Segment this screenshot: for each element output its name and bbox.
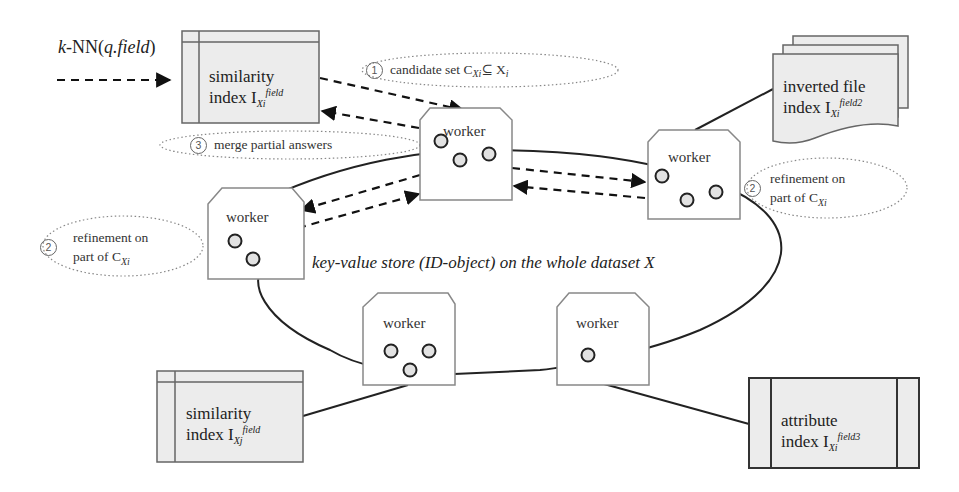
step-number-icon: 2	[40, 239, 57, 256]
note-step1: 1candidate set CXi⊆ Xi	[366, 62, 509, 79]
worker-label-bottom-left: worker	[383, 316, 425, 331]
worker-shape-top	[420, 108, 512, 200]
kv-store-label: key-value store (ID-object) on the whole…	[312, 254, 655, 271]
link-inverted	[695, 89, 773, 130]
note-step2-right: 2 refinement on part of CXi	[744, 172, 845, 204]
link-attribute	[604, 384, 749, 424]
diagram-canvas: k-NN(q.field) similarity index IXifield …	[0, 0, 959, 492]
arrow-from-right-worker	[514, 186, 645, 198]
step-number-icon: 3	[190, 137, 207, 154]
worker-shape-bottom-right	[557, 293, 649, 385]
link-sim-bottom	[303, 385, 408, 416]
step-number-icon: 1	[366, 62, 383, 79]
worker-shape-bottom-left	[363, 293, 455, 385]
worker-shape-right	[648, 130, 740, 219]
inverted-index-label: inverted file index IXifield2	[783, 78, 866, 116]
similarity-index-bottom-label: similarity index IXjfield	[186, 405, 260, 443]
arrow-merge	[322, 111, 419, 128]
arrow-from-left-worker	[298, 194, 419, 228]
worker-shape-left	[208, 188, 304, 279]
arrow-to-right-worker	[512, 168, 645, 182]
attribute-index-label: attribute index IXifield3	[781, 412, 860, 450]
query-label: k-NN(q.field)	[58, 38, 156, 56]
arrow-to-left-worker	[301, 175, 420, 210]
note-step2-left: 2 refinement on part of CXi	[40, 231, 148, 263]
worker-label-right: worker	[668, 150, 710, 165]
arrow-candidate	[320, 78, 463, 110]
note-step3: 3merge partial answers	[190, 137, 332, 154]
index-symbol: index I	[209, 88, 257, 107]
step-number-icon: 2	[744, 180, 761, 197]
similarity-index-top-label: similarity index IXifield	[209, 68, 283, 106]
worker-label-bottom-right: worker	[576, 316, 618, 331]
worker-label-top: worker	[443, 124, 485, 139]
worker-label-left: worker	[226, 210, 268, 225]
